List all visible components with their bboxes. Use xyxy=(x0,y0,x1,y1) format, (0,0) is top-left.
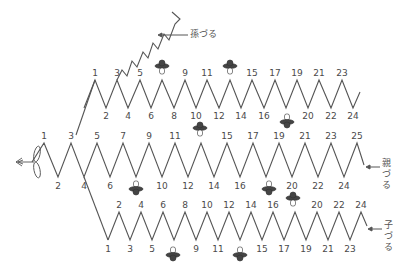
parent-vine-peak-number: 7 xyxy=(120,131,126,141)
upper-branch-peak-number: 23 xyxy=(336,68,347,78)
child-vine-peak-number: 6 xyxy=(160,200,166,210)
parent-vine-valley-number: 12 xyxy=(182,181,193,191)
upper-branch-peak-number: 9 xyxy=(182,68,188,78)
grandchild-vine-label: 孫づる xyxy=(190,29,217,40)
upper-branch-valley-number: 14 xyxy=(235,111,247,121)
parent-leader-arrowhead xyxy=(366,165,370,169)
parent-vine-valley-number: 22 xyxy=(312,181,323,191)
parent-vine-peak-number: 11 xyxy=(169,131,180,141)
child-vine-peak-number: 16 xyxy=(267,200,279,210)
upper-branch-valley-number: 6 xyxy=(148,111,154,121)
diagram-canvas: 1359111517192123246810121416202224135791… xyxy=(0,0,393,271)
upper-branch-peak-number: 19 xyxy=(291,68,303,78)
parent-vine-valley-number: 2 xyxy=(55,181,61,191)
child-vine-valley-number: 23 xyxy=(344,244,355,254)
fruit-flower-icon xyxy=(193,122,207,136)
child-vine-valley-number: 11 xyxy=(212,244,223,254)
upper-branch-valley-number: 20 xyxy=(302,111,314,121)
upper-branch-valley-number: 4 xyxy=(125,111,131,121)
upper-branch-peak-number: 11 xyxy=(201,68,212,78)
child-vine-stem xyxy=(84,177,108,240)
child-vine-peak-number: 10 xyxy=(201,200,213,210)
parent-vine-peak-number: 1 xyxy=(41,131,47,141)
fruit-flower-icon xyxy=(286,192,300,206)
upper-branch-peak-number: 17 xyxy=(269,68,280,78)
parent-vine-valley-number: 14 xyxy=(208,181,220,191)
upper-branch-valley-number: 10 xyxy=(190,111,202,121)
fruit-flower-icon xyxy=(262,181,276,195)
parent-vine-valley-number: 10 xyxy=(156,181,168,191)
upper-branch-valley-number: 8 xyxy=(171,111,177,121)
fruit-flower-icon xyxy=(129,181,143,195)
parent-vine-valley-number: 20 xyxy=(286,181,298,191)
parent-vine-peak-number: 17 xyxy=(247,131,258,141)
parent-vine-valley-number: 4 xyxy=(81,181,87,191)
fruit-flower-icon xyxy=(223,60,237,74)
upper-branch-valley-number: 24 xyxy=(347,111,359,121)
parent-vine-valley-number: 16 xyxy=(234,181,246,191)
parent-vine-peak-number: 23 xyxy=(325,131,336,141)
parent-vine-peak-number: 21 xyxy=(299,131,310,141)
upper-branch-peak-number: 21 xyxy=(313,68,324,78)
child-vine-peak-number: 24 xyxy=(355,200,367,210)
child-vine-peak-number: 8 xyxy=(182,200,188,210)
fruit-flower-icon xyxy=(166,247,180,261)
child-vine-label: 子づる xyxy=(383,220,393,253)
upper-branch-valley-number: 2 xyxy=(103,111,109,121)
fruit-flower-icon xyxy=(280,114,294,128)
parent-vine-zigzag xyxy=(32,143,364,177)
child-vine-valley-number: 15 xyxy=(256,244,267,254)
child-vine-valley-number: 5 xyxy=(149,244,155,254)
upper-branch-peak-number: 5 xyxy=(137,68,143,78)
upper-branch-peak-number: 3 xyxy=(114,68,120,78)
parent-vine-valley-number: 24 xyxy=(338,181,350,191)
parent-vine-peak-number: 19 xyxy=(273,131,285,141)
vine-diagram: 1359111517192123246810121416202224135791… xyxy=(0,0,393,271)
parent-vine-peak-number: 25 xyxy=(351,131,362,141)
child-vine-peak-number: 4 xyxy=(138,200,144,210)
parent-vine-peak-number: 3 xyxy=(68,131,74,141)
upper-branch-zigzag xyxy=(84,80,360,108)
parent-vine-peak-number: 9 xyxy=(146,131,152,141)
parent-vine-peak-number: 15 xyxy=(221,131,232,141)
upper-branch-peak-number: 1 xyxy=(92,68,98,78)
upper-branch-valley-number: 16 xyxy=(258,111,270,121)
upper-branch-peak-number: 15 xyxy=(246,68,257,78)
child-vine-valley-number: 3 xyxy=(127,244,133,254)
grandchild-leader-arrowhead xyxy=(158,33,162,37)
fruit-flower-icon xyxy=(233,247,247,261)
grandchild-vine-zigzag xyxy=(117,12,180,80)
child-leader-arrowhead xyxy=(368,227,372,231)
child-vine-zigzag xyxy=(108,212,367,240)
child-vine-peak-number: 14 xyxy=(245,200,257,210)
upper-branch-valley-number: 12 xyxy=(213,111,224,121)
child-vine-valley-number: 1 xyxy=(105,244,111,254)
parent-vine-peak-number: 5 xyxy=(94,131,100,141)
child-vine-peak-number: 2 xyxy=(116,200,122,210)
fruit-flower-icon xyxy=(155,60,169,74)
child-vine-valley-number: 21 xyxy=(322,244,333,254)
seedling-icon xyxy=(16,146,42,179)
child-vine-valley-number: 17 xyxy=(278,244,289,254)
child-vine-valley-number: 9 xyxy=(193,244,199,254)
upper-branch-valley-number: 22 xyxy=(325,111,336,121)
child-vine-valley-number: 19 xyxy=(300,244,312,254)
child-vine-peak-number: 22 xyxy=(333,200,344,210)
child-vine-peak-number: 12 xyxy=(223,200,234,210)
parent-vine-label: 親づる xyxy=(381,158,391,191)
parent-vine-valley-number: 6 xyxy=(107,181,113,191)
child-vine-peak-number: 20 xyxy=(311,200,323,210)
